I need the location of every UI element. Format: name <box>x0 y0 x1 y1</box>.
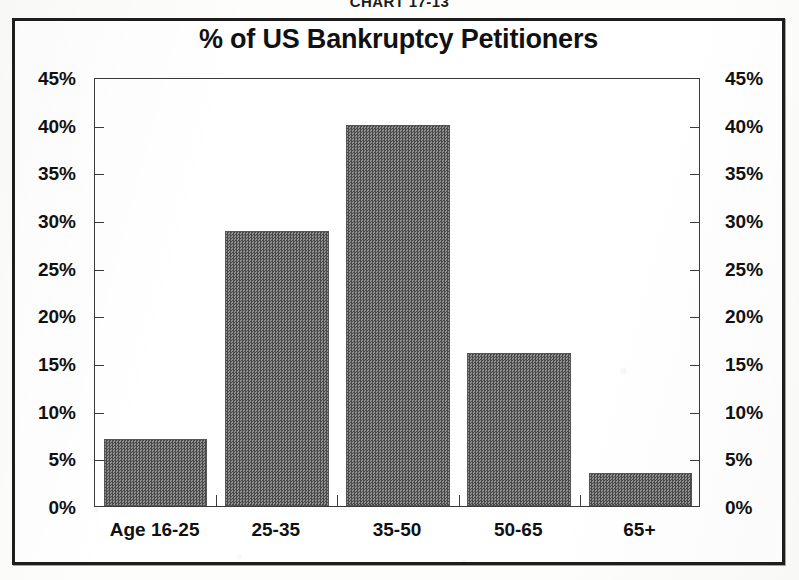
y-axis-label-left: 10% <box>38 403 76 422</box>
y-axis-label-left: 0% <box>49 498 76 517</box>
x-axis-label: 35-50 <box>336 519 457 541</box>
y-axis-label-left: 20% <box>38 307 76 326</box>
bar <box>589 473 693 506</box>
x-axis-label: 25-35 <box>215 519 336 541</box>
y-axis-labels-left: 0%5%10%15%20%25%30%35%40%45% <box>0 0 84 580</box>
chart-page: CHART 17-13 % of US Bankruptcy Petitione… <box>0 0 799 580</box>
y-axis-label-left: 30% <box>38 212 76 231</box>
x-axis-labels: Age 16-2525-3535-5050-6565+ <box>94 519 700 549</box>
y-axis-label-right: 0% <box>725 498 752 517</box>
y-axis-label-right: 35% <box>725 164 763 183</box>
y-axis-label-right: 20% <box>725 307 763 326</box>
plot-area <box>94 78 700 507</box>
chart-title: % of US Bankruptcy Petitioners <box>12 24 785 55</box>
bar <box>225 231 329 506</box>
y-axis-label-right: 45% <box>725 69 763 88</box>
y-axis-label-right: 25% <box>725 260 763 279</box>
y-axis-label-left: 25% <box>38 260 76 279</box>
bar <box>104 439 208 506</box>
y-axis-label-left: 35% <box>38 164 76 183</box>
y-axis-label-right: 15% <box>725 355 763 374</box>
y-axis-label-right: 5% <box>725 450 752 469</box>
y-axis-label-left: 45% <box>38 69 76 88</box>
figure-caption-text: CHART 17-13 <box>350 0 449 10</box>
y-axis-label-right: 10% <box>725 403 763 422</box>
x-axis-label: 65+ <box>579 519 700 541</box>
y-axis-label-left: 5% <box>49 450 76 469</box>
y-axis-label-left: 15% <box>38 355 76 374</box>
y-axis-labels-right: 0%5%10%15%20%25%30%35%40%45% <box>712 0 796 580</box>
y-axis-label-right: 30% <box>725 212 763 231</box>
x-axis-label: Age 16-25 <box>94 519 215 541</box>
bar <box>346 125 450 506</box>
y-axis-label-left: 40% <box>38 117 76 136</box>
bar <box>467 353 571 506</box>
x-axis-label: 50-65 <box>458 519 579 541</box>
bar-series <box>95 79 699 506</box>
y-axis-label-right: 40% <box>725 117 763 136</box>
figure-caption: CHART 17-13 <box>0 0 799 10</box>
